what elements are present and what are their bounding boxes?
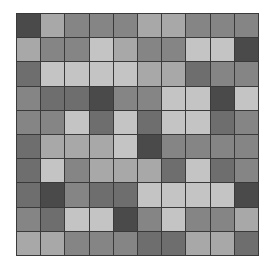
grid-cell [41,87,64,110]
grid-cell [65,232,88,255]
grid-cell [65,87,88,110]
grid-cell [162,183,185,206]
grid-cell [211,208,234,231]
grid-cell [235,135,258,158]
grid-cell [211,135,234,158]
grid-cell [186,62,209,85]
grid-cell [138,111,161,134]
grid-cell [138,62,161,85]
grid-cell [186,232,209,255]
grid-cell [138,135,161,158]
grid-cell [41,208,64,231]
grid-cell [114,208,137,231]
grid-cell [114,111,137,134]
grid-cell [211,87,234,110]
grid-cell [17,38,40,61]
grid-cell [90,111,113,134]
grid-cell [41,14,64,37]
grid-cell [17,232,40,255]
grid-cell [114,135,137,158]
grid-cell [162,87,185,110]
grid-cell [65,38,88,61]
grid-cell [90,183,113,206]
grid-cell [41,159,64,182]
grid-cell [17,14,40,37]
grid-cell [235,87,258,110]
grid-cell [41,232,64,255]
grid-cell [114,183,137,206]
grid-cell [162,232,185,255]
grid-cell [90,62,113,85]
grid-cell [17,208,40,231]
grid-cell [41,62,64,85]
grid-cell [90,159,113,182]
grid-cell [90,87,113,110]
grid-cell [138,38,161,61]
grid-cell [186,208,209,231]
grid-cell [235,208,258,231]
grid-cell [211,183,234,206]
grid-cell [114,232,137,255]
grid-cell [162,62,185,85]
grid-cell [186,135,209,158]
grid-cell [235,38,258,61]
grid-cell [162,159,185,182]
grid-cell [17,183,40,206]
grid-cell [114,14,137,37]
grid-cell [186,87,209,110]
grid-cell [114,87,137,110]
grid-cell [17,159,40,182]
grid-cell [90,38,113,61]
grid-cell [90,14,113,37]
grid-cell [65,208,88,231]
grid-cell [211,159,234,182]
grid-cell [17,62,40,85]
grid-cell [138,14,161,37]
grid-cell [90,135,113,158]
grid-cell [162,208,185,231]
grid-cell [114,159,137,182]
grid-cell [186,183,209,206]
grid-cell [17,111,40,134]
grid-cell [211,62,234,85]
grid-cell [235,111,258,134]
grid-cell [41,38,64,61]
grid-cell [235,14,258,37]
grid-cell [138,183,161,206]
grid-cell [186,14,209,37]
grid-cell [41,135,64,158]
grid-cell [65,111,88,134]
grid-cell [41,111,64,134]
grid-cell [235,159,258,182]
grid-cell [17,135,40,158]
grid-cell [211,14,234,37]
grid-cell [186,159,209,182]
grid-cell [65,62,88,85]
grid-cell [211,232,234,255]
grid-cell [235,62,258,85]
grid-cell [211,111,234,134]
grid-cell [138,87,161,110]
gray-tile-grid [16,13,259,256]
grid-cell [235,232,258,255]
grid-cell [186,38,209,61]
grid-cell [162,135,185,158]
grid-cell [138,208,161,231]
grid-cell [65,183,88,206]
grid-cell [211,38,234,61]
grid-cell [162,38,185,61]
grid-cell [235,183,258,206]
grid-cell [162,111,185,134]
grid-cell [65,14,88,37]
grid-cell [65,135,88,158]
grid-cell [138,159,161,182]
grid-cell [114,62,137,85]
grid-cell [90,208,113,231]
grid-cell [90,232,113,255]
grid-cell [41,183,64,206]
grid-cell [186,111,209,134]
grid-cell [138,232,161,255]
grid-cell [114,38,137,61]
grid-cell [162,14,185,37]
grid-cell [65,159,88,182]
